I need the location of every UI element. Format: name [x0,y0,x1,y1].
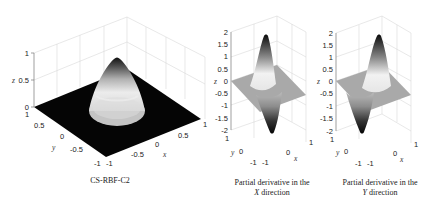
plot1-xtick-neg1: -1 [106,159,113,168]
plot3-ytick-0: 0 [344,147,348,156]
svg-text:0: 0 [224,77,228,86]
svg-text:1.5: 1.5 [218,40,228,49]
svg-text:-1: -1 [326,102,333,111]
plot2-zlabel: z [213,77,217,86]
plot3-zticks: 2 1.5 1 0.5 0 -0.5 -1 -1.5 -2 [320,29,333,136]
caption-partial-y-line2: Y direction [330,188,430,198]
caption-partial-x-rest: direction [259,188,289,197]
plot2-zticks: 2 1.5 1 0.5 0 -0.5 -1 -1.5 -2 [215,28,228,135]
plot-partial-y: 2 1.5 1 0.5 0 -0.5 -1 -1.5 -2 z 1 y 0 -1… [316,16,418,168]
plot3-ytick-1: 1 [330,135,334,144]
plot2-xtick-1: 1 [309,138,313,147]
caption-partial-y-rest: direction [367,188,397,197]
plot1-ytick-1: 1 [25,110,29,119]
svg-text:-0.5: -0.5 [215,89,228,98]
plot3-xtick-1: 1 [414,140,418,149]
svg-text:1: 1 [224,52,228,61]
caption-partial-y: Partial derivative in the Y direction [330,178,430,198]
svg-text:0: 0 [329,77,333,86]
plot-cs-rbf-c2: 1 0.5 z 0 1 0.5 0 y -0.5 -1 -1 -0.5 0 x … [11,17,207,168]
plot1-xtick-1: 1 [203,120,207,129]
svg-text:0.5: 0.5 [218,65,228,74]
plot2-ytick-neg1: -1 [250,158,257,167]
caption-partial-x-line2: X direction [222,188,322,198]
plot1-zlabel: z [11,76,15,85]
svg-text:2: 2 [329,29,333,38]
plot1-xtick-0: 0 [155,140,159,149]
plot3-ylabel: y [335,148,340,157]
plot2-xlabel: x [293,154,298,163]
plot2-ytick-1: 1 [225,134,229,143]
plot3-negative-trough [346,92,374,134]
plot1-ytick-neg1: -1 [94,159,101,168]
plot1-xlabel: x [162,150,167,159]
plot3-ytick-neg1: -1 [355,159,362,168]
plot3-positive-peak [362,35,391,93]
plot2-negative-trough [256,92,282,134]
svg-text:0.5: 0.5 [323,65,333,74]
plot3-xtick-neg1: -1 [367,159,374,168]
plot3-xlabel: x [399,155,404,164]
caption-partial-y-line1: Partial derivative in the [330,178,430,188]
svg-text:-1.5: -1.5 [320,114,333,123]
svg-text:-1: -1 [221,101,228,110]
figure: 1 0.5 z 0 1 0.5 0 y -0.5 -1 -1 -0.5 0 x … [0,0,430,201]
caption-partial-x-line1: Partial derivative in the [222,178,322,188]
plot1-cone [89,58,145,127]
plot3-zlabel: z [316,77,320,86]
caption-partial-x: Partial derivative in the X direction [222,178,322,198]
plot1-ytick-neg0.5: -0.5 [70,145,83,154]
svg-text:1.5: 1.5 [323,41,333,50]
svg-text:2: 2 [224,28,228,37]
plot1-ytick-0: 0 [60,132,64,141]
plot2-ytick-0: 0 [239,147,243,156]
plot2-xtick-neg1: -1 [262,158,269,167]
svg-text:-1.5: -1.5 [215,114,228,123]
plot-partial-x: 2 1.5 1 0.5 0 -0.5 -1 -1.5 -2 z 1 y 0 -1… [213,16,313,167]
svg-text:1: 1 [329,53,333,62]
plot2-ylabel: y [230,148,235,157]
plot1-xtick-neg0.5: -0.5 [131,150,144,159]
plot2-xtick-0: 0 [286,148,290,157]
plot1-ylabel: y [51,143,56,152]
plot3-xtick-0: 0 [393,149,397,158]
caption-cs-rbf-c2: CS-RBF-C2 [60,176,160,186]
plot1-ztick-0.5: 0.5 [19,76,29,85]
plot1-ytick-0.5: 0.5 [34,121,44,130]
svg-text:-0.5: -0.5 [320,89,333,98]
plot1-xtick-0.5: 0.5 [178,131,188,140]
plot1-ztick-1: 1 [25,49,29,58]
